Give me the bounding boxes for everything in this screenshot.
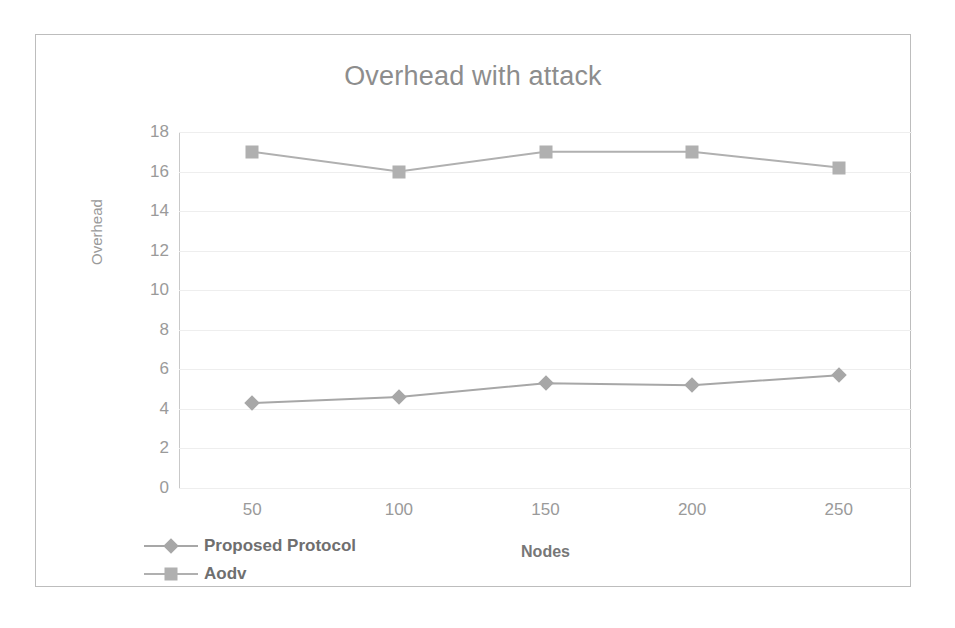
- legend-label: Proposed Protocol: [204, 536, 356, 556]
- chart-title: Overhead with attack: [36, 61, 910, 92]
- x-axis-tick-label: 200: [678, 500, 706, 520]
- y-axis-tick-label: 14: [150, 201, 169, 221]
- y-axis-tick-label: 10: [150, 280, 169, 300]
- y-axis-tick-label: 8: [160, 320, 169, 340]
- data-point-marker: [686, 145, 699, 158]
- plot-area: 024681012141618 50100150200250: [179, 132, 912, 488]
- data-point-marker: [832, 161, 845, 174]
- y-axis-tick-label: 2: [160, 438, 169, 458]
- legend-entry: Aodv: [144, 560, 356, 588]
- legend-marker: [163, 538, 179, 554]
- data-point-marker: [392, 165, 405, 178]
- chart-legend: Proposed ProtocolAodv: [144, 532, 356, 588]
- y-axis-tick-label: 6: [160, 359, 169, 379]
- data-point-marker: [539, 145, 552, 158]
- x-axis-tick-label: 50: [243, 500, 262, 520]
- y-axis-tick-label: 18: [150, 122, 169, 142]
- y-axis-tick-label: 0: [160, 478, 169, 498]
- y-axis-tick-label: 16: [150, 162, 169, 182]
- x-axis-tick-label: 100: [385, 500, 413, 520]
- legend-entry: Proposed Protocol: [144, 532, 356, 560]
- legend-label: Aodv: [204, 564, 247, 584]
- series-lines: [179, 132, 912, 488]
- y-axis-tick-label: 12: [150, 241, 169, 261]
- legend-marker: [165, 568, 178, 581]
- legend-swatch: [144, 565, 198, 583]
- gridline: [179, 488, 912, 489]
- x-axis-tick-label: 250: [825, 500, 853, 520]
- data-point-marker: [246, 145, 259, 158]
- y-axis-tick-label: 4: [160, 399, 169, 419]
- x-axis-tick-label: 150: [531, 500, 559, 520]
- legend-swatch: [144, 537, 198, 555]
- chart-figure-frame: Overhead with attack Overhead 0246810121…: [35, 34, 911, 587]
- y-axis-title: Overhead: [88, 199, 105, 265]
